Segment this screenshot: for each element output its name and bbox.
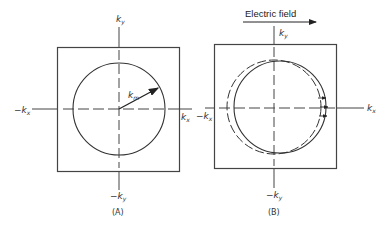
caption-a: (A) bbox=[112, 208, 124, 217]
label-ky-b: ky bbox=[279, 28, 288, 40]
label-neg-ky-b: −ky bbox=[266, 190, 283, 202]
label-neg-kx-b: −kx bbox=[196, 111, 213, 122]
figure-canvas: km ky −ky −kx kx (A) Electric field ky −… bbox=[0, 0, 388, 230]
panel-b: Electric field ky −ky −kx kx (B) bbox=[196, 8, 376, 217]
label-kx-a: kx bbox=[181, 112, 190, 123]
displaced-circle-solid bbox=[234, 61, 326, 153]
panel-a: km ky −ky −kx kx (A) bbox=[14, 14, 192, 217]
label-kx-b: kx bbox=[367, 103, 376, 114]
panel-b-box bbox=[215, 45, 337, 169]
label-km: km bbox=[128, 90, 139, 101]
electric-field-label: Electric field bbox=[245, 8, 296, 19]
label-ky-a: ky bbox=[116, 14, 125, 26]
label-neg-ky-a: −ky bbox=[110, 191, 127, 203]
caption-b: (B) bbox=[268, 208, 280, 217]
label-neg-kx-a: −kx bbox=[14, 105, 31, 116]
